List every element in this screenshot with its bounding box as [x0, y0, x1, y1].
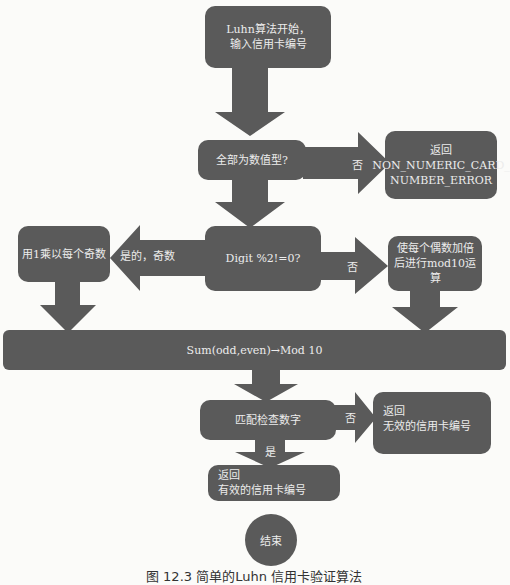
even-line2: 后进行mod10运算: [392, 256, 478, 286]
digit-check-node: Digit %2!=0?: [205, 226, 321, 291]
edge-label-numeric-no: 否: [352, 156, 363, 172]
match-check-node: 匹配检查数字: [200, 400, 336, 440]
end-node: 结束: [245, 514, 297, 566]
start-text-line1: Luhn算法开始，: [226, 22, 310, 37]
arrow-down-3: [234, 368, 298, 402]
invalid-node: 返回无效的信用卡编号: [373, 392, 491, 454]
check-numeric-node: 全部为数值型?: [198, 140, 306, 180]
valid-line2: 有效的信用卡编号: [218, 483, 306, 498]
arrow-down-even: [392, 290, 458, 333]
numeric-error-node: 返回NON_NUMERIC_CARD_NUMBER_ERROR: [385, 131, 497, 199]
arrow-down-odd: [40, 280, 96, 333]
odd-multiply-node: 用1乘以每个奇数: [18, 226, 110, 282]
sum-mod-node: Sum(odd,even)→Mod 10: [3, 330, 506, 370]
edge-label-odd-yes: 是的，奇数: [120, 247, 175, 263]
arrow-down-1: [215, 66, 285, 136]
error-line3: NUMBER_ERROR: [372, 173, 509, 188]
error-line1: 返回: [372, 143, 509, 158]
even-double-node: 使每个偶数加倍后进行mod10运算: [388, 236, 482, 291]
edge-label-even-no: 否: [347, 258, 358, 274]
error-line2: NON_NUMERIC_CARD_: [372, 158, 509, 173]
digit-check-text: Digit %2!=0?: [226, 251, 301, 266]
check-numeric-text: 全部为数值型?: [216, 153, 288, 168]
edge-label-match-no: 否: [345, 409, 356, 425]
arrow-down-2: [215, 178, 285, 228]
odd-multiply-text: 用1乘以每个奇数: [22, 247, 106, 262]
edge-label-match-yes: 是: [265, 443, 276, 459]
valid-line1: 返回: [218, 468, 306, 483]
figure-caption: 图 12.3 简单的Luhn 信用卡验证算法: [0, 566, 508, 585]
match-check-text: 匹配检查数字: [235, 413, 301, 428]
start-text-line2: 输入信用卡编号: [226, 37, 310, 52]
invalid-line1: 返回: [383, 404, 471, 419]
end-text: 结束: [260, 532, 282, 548]
sum-mod-text: Sum(odd,even)→Mod 10: [187, 343, 323, 358]
valid-node: 返回有效的信用卡编号: [208, 465, 340, 501]
invalid-line2: 无效的信用卡编号: [383, 419, 471, 434]
start-node: Luhn算法开始，输入信用卡编号: [205, 6, 331, 68]
even-line1: 使每个偶数加倍: [392, 241, 478, 256]
